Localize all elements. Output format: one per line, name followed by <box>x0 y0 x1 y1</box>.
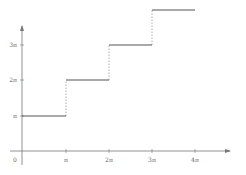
x-tick-label: 3π <box>148 156 156 163</box>
jump-connectors <box>66 10 152 116</box>
x-tick-label: 2π <box>105 156 113 163</box>
step-function-chart: 0 π 2π 3π 4π π 2π 3π <box>0 0 246 175</box>
x-tick-label: 4π <box>191 156 199 163</box>
y-tick-label: 2π <box>9 76 17 83</box>
step-segments <box>22 10 195 116</box>
y-tick-labels: π 2π 3π <box>9 41 17 119</box>
x-tick-labels: 0 π 2π 3π 4π <box>13 156 199 163</box>
x-tick-label: π <box>64 156 68 163</box>
y-tick-label: π <box>13 112 17 119</box>
y-tick-label: 3π <box>9 41 17 48</box>
x-tick-label: 0 <box>13 156 17 163</box>
